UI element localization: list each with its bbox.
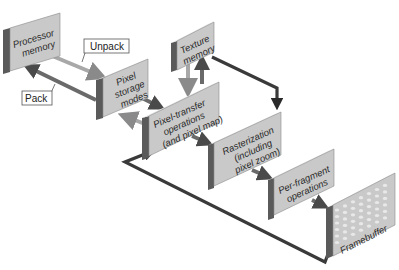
framebuffer-pixel <box>383 203 387 206</box>
framebuffer-pixel <box>351 200 355 203</box>
framebuffer-pixel <box>375 201 379 204</box>
framebuffer-pixel <box>359 229 363 232</box>
node-processor-memory: Processor memory <box>3 13 61 74</box>
framebuffer-pixel <box>367 218 371 221</box>
framebuffer-pixel <box>383 216 387 219</box>
pixel-pipeline-diagram: Processor memory Pixel storage modes Tex… <box>0 0 399 270</box>
framebuffer-pixel <box>335 215 339 218</box>
framebuffer-pixel <box>335 241 339 244</box>
framebuffer-pixel <box>343 237 347 240</box>
framebuffer-pixel <box>375 194 379 197</box>
framebuffer-pixel <box>367 199 371 202</box>
arrow-transfer-to-rasterization <box>192 136 206 142</box>
framebuffer-pixel <box>383 210 387 213</box>
framebuffer-pixel <box>343 230 347 233</box>
framebuffer-pixel <box>359 216 363 219</box>
framebuffer-pixel <box>351 213 355 216</box>
framebuffer-pixel <box>375 207 379 210</box>
callout-pack: Pack <box>22 84 55 105</box>
framebuffer-pixel <box>335 208 339 211</box>
framebuffer-pixel <box>383 190 387 193</box>
framebuffer-pixel <box>343 204 347 207</box>
framebuffer-pixel <box>359 203 363 206</box>
framebuffer-pixel <box>351 220 355 223</box>
framebuffer-pixel <box>359 196 363 199</box>
framebuffer-pixel <box>335 228 339 231</box>
framebuffer-pixel <box>383 197 387 200</box>
callout-label: Unpack <box>90 41 125 52</box>
node-texture-memory: Texture memory <box>171 22 218 72</box>
framebuffer-pixel <box>367 225 371 228</box>
framebuffer-pixel <box>367 192 371 195</box>
framebuffer-pixel <box>343 224 347 227</box>
framebuffer-pixel <box>383 184 387 187</box>
framebuffer-pixel <box>375 214 379 217</box>
arrow-perfragment-to-framebuffer <box>312 200 322 205</box>
framebuffer-pixel <box>359 209 363 212</box>
framebuffer-pixel <box>367 205 371 208</box>
arrow-texture-to-rasterization <box>212 57 277 104</box>
framebuffer-pixel <box>375 220 379 223</box>
node-pixel-storage-modes: Pixel storage modes <box>96 59 153 120</box>
framebuffer-pixel <box>351 207 355 210</box>
framebuffer-pixel <box>367 212 371 215</box>
framebuffer-pixel <box>375 188 379 191</box>
arrow-unpack <box>50 55 98 75</box>
framebuffer-pixel <box>343 211 347 214</box>
callout-label: Pack <box>25 93 48 104</box>
framebuffer-pixel <box>351 233 355 236</box>
framebuffer-pixel <box>359 222 363 225</box>
framebuffer-pixel <box>335 221 339 224</box>
node-framebuffer: Framebuffer <box>326 173 395 259</box>
arrow-rasterization-to-perfragment <box>252 170 266 176</box>
framebuffer-pixel <box>335 234 339 237</box>
framebuffer-pixel <box>343 217 347 220</box>
callout-unpack: Unpack <box>82 39 129 62</box>
framebuffer-pixel <box>351 226 355 229</box>
